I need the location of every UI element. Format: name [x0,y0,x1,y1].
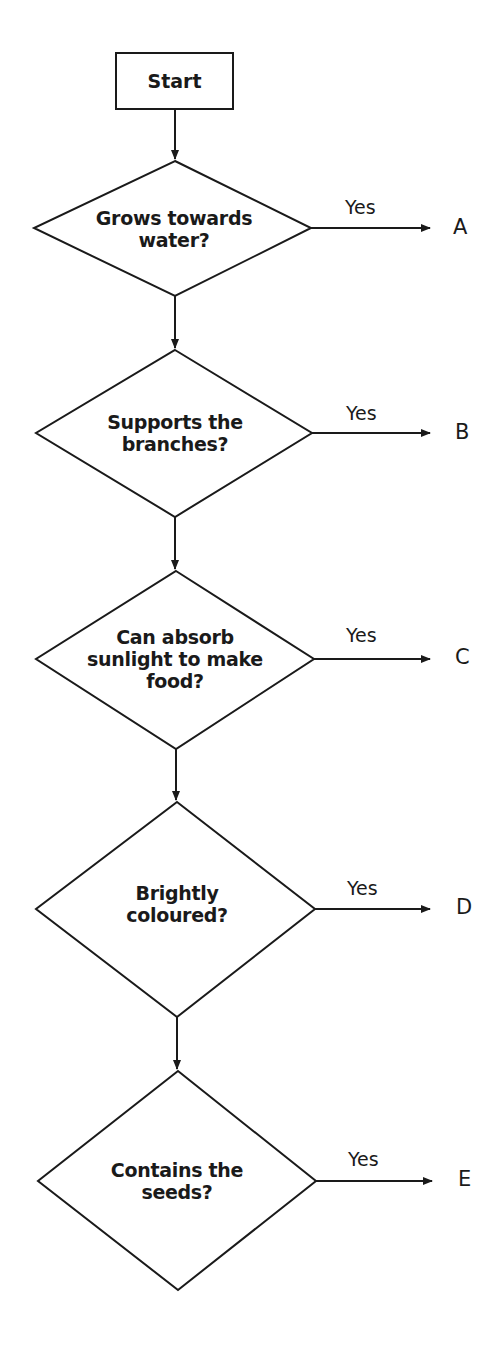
decision-3-line-3: food? [87,670,263,692]
outcome-a: A [453,215,467,239]
decision-4-line-1: Brightly [126,882,228,904]
decision-text-1: Grows towards water? [96,207,252,251]
decision-5-line-2: seeds? [111,1181,243,1203]
outcome-d: D [456,895,472,919]
decision-text-2: Supports the branches? [107,411,243,455]
decision-text-4: Brightly coloured? [126,882,228,926]
decision-2-line-1: Supports the [107,411,243,433]
decision-3-line-1: Can absorb [87,626,263,648]
yes-label-1: Yes [345,196,376,218]
start-label: Start [147,70,201,92]
outcome-c: C [455,645,470,669]
decision-1-line-2: water? [96,229,252,251]
yes-label-2: Yes [346,402,377,424]
decision-1-line-1: Grows towards [96,207,252,229]
yes-label-3: Yes [346,624,377,646]
decision-text-3: Can absorb sunlight to make food? [87,626,263,692]
outcome-b: B [455,420,469,444]
start-node: Start [115,52,234,110]
yes-label-5: Yes [348,1148,379,1170]
decision-4-line-2: coloured? [126,904,228,926]
decision-text-5: Contains the seeds? [111,1159,243,1203]
yes-label-4: Yes [347,877,378,899]
outcome-e: E [458,1167,471,1191]
decision-5-line-1: Contains the [111,1159,243,1181]
decision-2-line-2: branches? [107,433,243,455]
decision-3-line-2: sunlight to make [87,648,263,670]
